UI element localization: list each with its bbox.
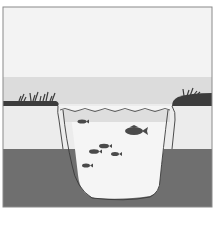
- left-bank: [3, 101, 59, 106]
- sky: [3, 7, 212, 77]
- pond-diagram: [0, 0, 220, 225]
